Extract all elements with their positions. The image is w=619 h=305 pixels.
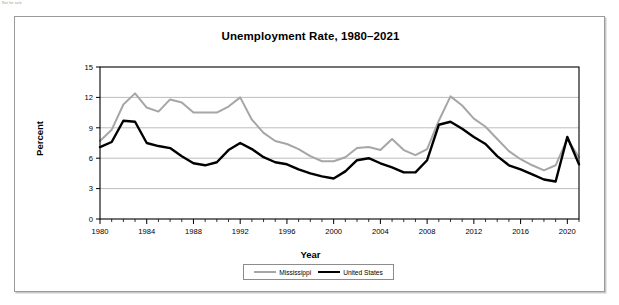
chart-figure-frame: Unemployment Rate, 1980–2021 03691215 19… — [14, 16, 605, 292]
legend-label: Mississippi — [279, 269, 311, 276]
svg-text:9: 9 — [89, 124, 93, 133]
svg-text:2016: 2016 — [512, 227, 529, 236]
line-swatch-icon — [254, 271, 276, 273]
svg-text:0: 0 — [89, 215, 93, 224]
svg-text:1992: 1992 — [232, 227, 249, 236]
legend-item-united-states: United States — [318, 269, 383, 276]
svg-text:15: 15 — [85, 63, 93, 72]
svg-text:2004: 2004 — [372, 227, 389, 236]
svg-text:6: 6 — [89, 154, 93, 163]
data-series-lines — [100, 93, 579, 181]
corner-note: Not for sale — [2, 1, 22, 5]
legend-item-mississippi: Mississippi — [254, 269, 311, 276]
svg-text:1988: 1988 — [185, 227, 202, 236]
svg-text:3: 3 — [89, 184, 93, 193]
line-swatch-icon — [318, 271, 340, 273]
y-tick-labels: 03691215 — [85, 63, 93, 224]
x-axis-title: Year — [15, 249, 606, 260]
svg-text:1996: 1996 — [278, 227, 295, 236]
svg-text:2012: 2012 — [465, 227, 482, 236]
chart-legend: Mississippi United States — [243, 264, 394, 280]
svg-text:1984: 1984 — [138, 227, 155, 236]
svg-text:2020: 2020 — [559, 227, 576, 236]
axis-ticks — [96, 67, 579, 224]
svg-text:2000: 2000 — [325, 227, 342, 236]
x-tick-labels: 1980198419881992199620002004200820122016… — [92, 227, 576, 236]
svg-text:1980: 1980 — [92, 227, 109, 236]
axis-frame — [100, 67, 579, 219]
y-axis-title: Percent — [34, 109, 45, 169]
svg-text:2008: 2008 — [419, 227, 436, 236]
svg-text:12: 12 — [85, 93, 93, 102]
legend-label: United States — [343, 269, 383, 276]
